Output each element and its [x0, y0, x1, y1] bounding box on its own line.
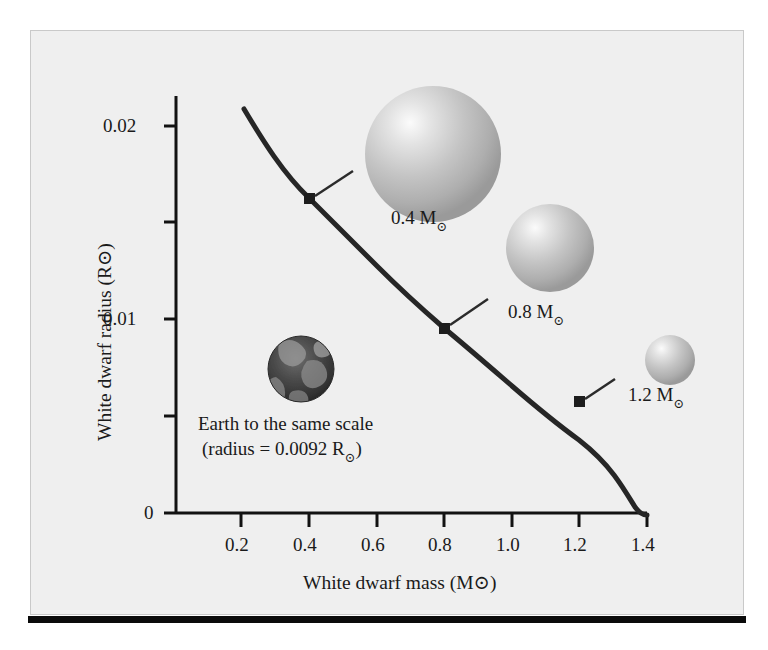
x-tick-label-0.8: 0.8 — [428, 534, 452, 556]
earth-graphic — [265, 336, 334, 407]
white-dwarf-mass-radius-plot — [31, 31, 745, 616]
sun-symbol-icon: ⊙ — [553, 313, 564, 328]
x-axis-title: White dwarf mass (M⊙) — [303, 571, 496, 594]
sphere-12-mass-text: 1.2 M — [628, 384, 673, 405]
sun-symbol-icon: ⊙ — [345, 450, 356, 465]
sun-symbol-icon: ⊙ — [436, 219, 447, 234]
sphere-08-graphic — [506, 204, 594, 292]
earth-caption-close: ) — [356, 438, 362, 459]
x-tick-label-0.6: 0.6 — [361, 534, 385, 556]
bottom-rule — [28, 616, 746, 623]
figure-panel: 0.02 0.01 0 0.2 0.4 0.6 0.8 1.0 1.2 1.4 … — [30, 30, 744, 615]
marker-0.4 — [304, 193, 315, 204]
figure-page: 0.02 0.01 0 0.2 0.4 0.6 0.8 1.0 1.2 1.4 … — [0, 0, 768, 650]
x-axis-title-text: White dwarf mass (M⊙) — [303, 572, 496, 593]
y-tick-label-0: 0 — [144, 502, 154, 524]
y-axis-title: White dwarf radius (R⊙) — [93, 243, 116, 441]
y-axis-ticks — [164, 126, 176, 513]
sphere-12-graphic — [645, 335, 695, 385]
marker-0.8 — [439, 323, 450, 334]
x-tick-label-1.2: 1.2 — [563, 534, 587, 556]
x-tick-label-1.4: 1.4 — [631, 534, 655, 556]
sphere-04-graphic — [365, 86, 501, 222]
y-tick-label-0.02: 0.02 — [103, 115, 136, 137]
marker-1.2 — [574, 396, 585, 407]
earth-caption-line2-text: (radius = 0.0092 R — [202, 438, 345, 459]
sphere-04-label: 0.4 M⊙ — [391, 207, 447, 233]
sphere-12-label: 1.2 M⊙ — [628, 384, 684, 410]
x-axis-ticks — [241, 513, 647, 527]
sphere-08-mass-text: 0.8 M — [508, 301, 553, 322]
sphere-08-label: 0.8 M⊙ — [508, 301, 564, 327]
y-axis-title-text: White dwarf radius (R⊙) — [94, 243, 115, 441]
earth-caption-line1: Earth to the same scale — [198, 413, 373, 435]
sun-symbol-icon: ⊙ — [673, 396, 684, 411]
x-tick-label-1.0: 1.0 — [496, 534, 520, 556]
x-tick-label-0.4: 0.4 — [293, 534, 317, 556]
earth-caption-line2: (radius = 0.0092 R⊙) — [202, 438, 362, 464]
sphere-04-mass-text: 0.4 M — [391, 207, 436, 228]
x-tick-label-0.2: 0.2 — [225, 534, 249, 556]
